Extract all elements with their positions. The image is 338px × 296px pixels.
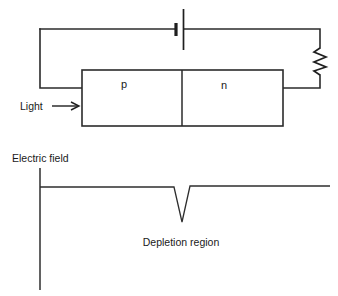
light-label: Light xyxy=(20,100,43,112)
figure-root: p n Light Electric field Depletion regio… xyxy=(0,0,338,296)
electric-field-axis-label: Electric field xyxy=(12,152,69,164)
electric-field-plot: Electric field Depletion region xyxy=(12,152,330,290)
depletion-region-annotation: Depletion region xyxy=(143,236,220,248)
photodiode-circuit-and-field-figure: p n Light Electric field Depletion regio… xyxy=(0,0,338,296)
wire-top-right-segment xyxy=(184,29,320,48)
wire-left-branch xyxy=(40,29,82,88)
wire-right-branch xyxy=(283,75,320,88)
battery-symbol xyxy=(176,9,184,50)
resistor-symbol xyxy=(314,48,326,75)
p-region-label: p xyxy=(121,78,127,90)
circuit-diagram: p n Light xyxy=(20,9,326,126)
field-profile-curve xyxy=(40,186,330,222)
pn-junction-bar: p n xyxy=(82,70,283,126)
resistor-zigzag xyxy=(314,48,326,75)
light-annotation: Light xyxy=(20,100,79,112)
n-region-label: n xyxy=(221,79,227,91)
